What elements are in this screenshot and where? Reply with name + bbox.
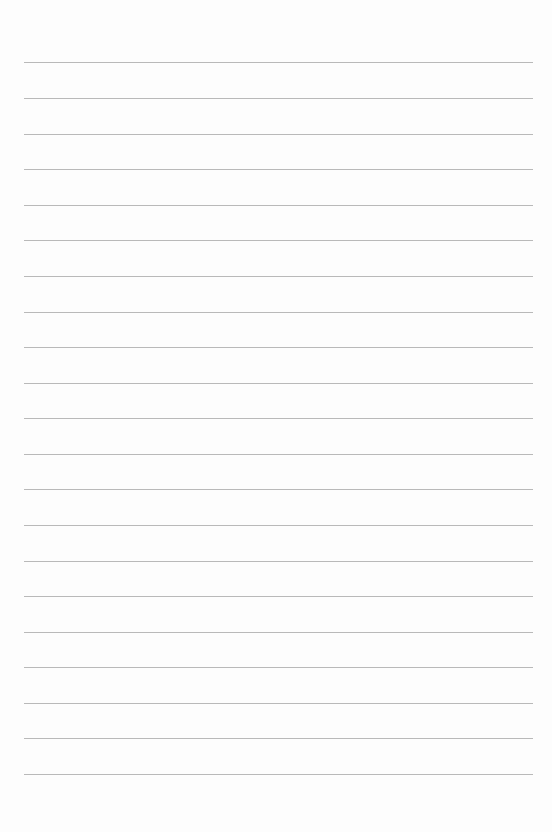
ruled-line (24, 276, 533, 277)
ruled-line (24, 774, 533, 775)
ruled-line (24, 98, 533, 99)
ruled-line (24, 383, 533, 384)
ruled-line (24, 667, 533, 668)
lined-paper-sheet (0, 0, 552, 832)
ruled-line (24, 169, 533, 170)
ruled-line (24, 134, 533, 135)
ruled-line (24, 347, 533, 348)
ruled-line (24, 489, 533, 490)
ruled-line (24, 205, 533, 206)
ruled-line (24, 454, 533, 455)
ruled-line (24, 632, 533, 633)
ruled-line (24, 596, 533, 597)
ruled-line (24, 703, 533, 704)
ruled-line (24, 240, 533, 241)
ruled-line (24, 525, 533, 526)
ruled-line (24, 738, 533, 739)
ruled-line (24, 312, 533, 313)
ruled-line (24, 418, 533, 419)
ruled-line (24, 62, 533, 63)
ruled-line (24, 561, 533, 562)
